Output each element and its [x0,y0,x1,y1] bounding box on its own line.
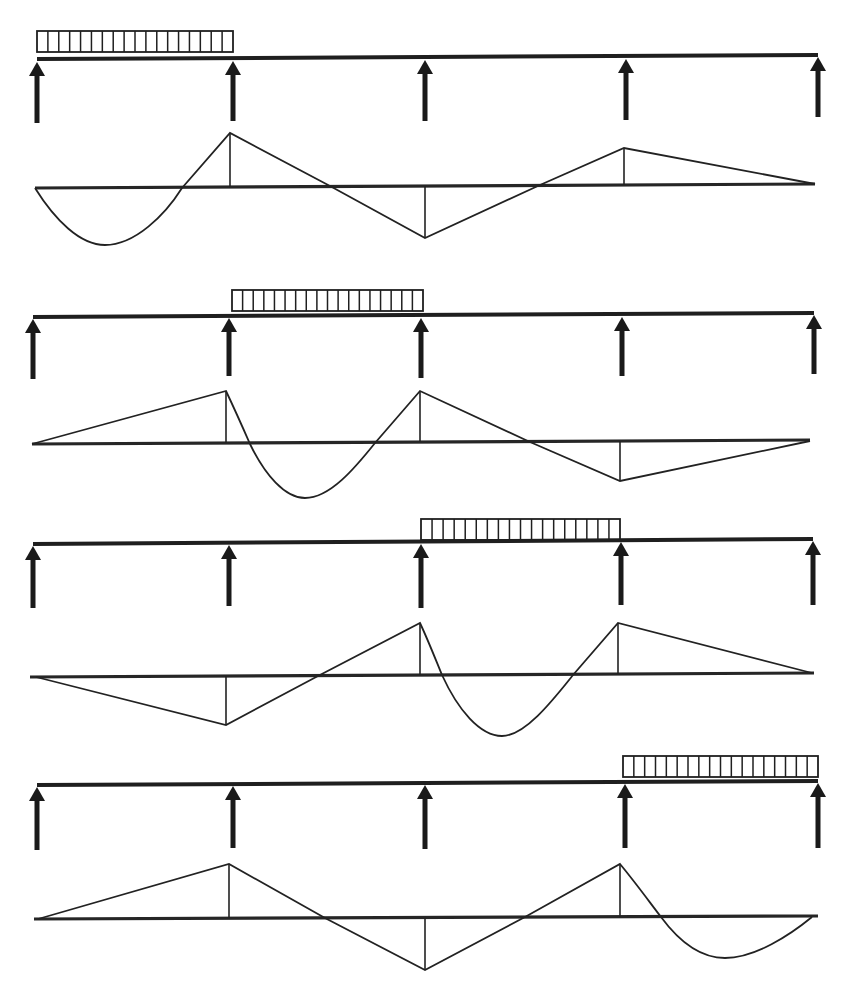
arrow-head-icon [225,786,241,800]
support-arrow-icon [225,61,241,121]
arrow-head-icon [805,541,821,555]
distributed-load [623,756,818,777]
arrow-shaft [812,328,817,374]
arrow-head-icon [810,57,826,71]
arrow-head-icon [806,315,822,329]
load-case-1 [29,31,826,245]
beam [33,539,813,544]
arrow-shaft [231,74,236,121]
load-case-4 [29,756,826,970]
moment-curve [36,623,812,736]
bending-moment-diagram [34,864,818,970]
bending-moment-diagram [30,623,814,736]
arrow-head-icon [810,783,826,797]
arrow-head-icon [29,787,45,801]
arrow-shaft [419,557,424,608]
beam [37,55,818,59]
arrow-head-icon [618,59,634,73]
moment-diagram-canvas [0,0,849,1007]
arrow-shaft [619,555,624,605]
beam [37,781,818,785]
arrow-head-icon [417,60,433,74]
support-arrow-icon [25,319,41,379]
support-arrow-icon [413,544,429,608]
arrow-shaft [419,331,424,378]
arrow-head-icon [25,319,41,333]
support-arrow-icon [805,541,821,605]
support-arrow-icon [618,59,634,120]
arrow-shaft [816,70,821,117]
arrow-shaft [816,796,821,848]
arrow-head-icon [225,61,241,75]
arrow-head-icon [221,318,237,332]
arrow-shaft [31,559,36,608]
support-arrow-icon [810,783,826,848]
arrow-shaft [624,72,629,120]
moment-baseline [30,673,814,677]
support-arrow-icon [225,786,241,848]
arrow-head-icon [29,62,45,76]
moment-baseline [34,916,818,919]
distributed-load [232,290,423,311]
bending-moment-diagram [32,391,810,498]
arrow-shaft [620,330,625,376]
arrow-shaft [227,558,232,606]
arrow-head-icon [613,542,629,556]
support-arrow-icon [221,318,237,376]
support-arrow-icon [614,317,630,376]
arrow-head-icon [413,544,429,558]
support-arrow-icon [806,315,822,374]
arrow-head-icon [617,784,633,798]
arrow-shaft [811,554,816,605]
arrow-shaft [31,332,36,379]
support-arrow-icon [25,546,41,608]
load-case-3 [25,519,821,736]
support-arrow-icon [810,57,826,117]
arrow-head-icon [221,545,237,559]
continuous-beam-figure [0,0,849,1007]
support-arrow-icon [29,787,45,850]
arrow-head-icon [417,785,433,799]
load-case-2 [25,290,822,498]
bending-moment-diagram [35,133,815,245]
arrow-shaft [423,73,428,121]
moment-baseline [32,440,810,444]
support-arrow-icon [413,318,429,378]
arrow-shaft [35,75,40,123]
arrow-head-icon [413,318,429,332]
arrow-shaft [423,798,428,849]
support-arrow-icon [29,62,45,123]
support-arrow-icon [221,545,237,606]
distributed-load [37,31,233,52]
arrow-head-icon [25,546,41,560]
support-arrow-icon [617,784,633,848]
arrow-shaft [231,799,236,848]
arrow-shaft [623,797,628,848]
arrow-shaft [227,331,232,376]
distributed-load [421,519,620,540]
support-arrow-icon [613,542,629,605]
support-arrow-icon [417,785,433,849]
arrow-shaft [35,800,40,850]
beam [33,313,814,317]
support-arrow-icon [417,60,433,121]
arrow-head-icon [614,317,630,331]
